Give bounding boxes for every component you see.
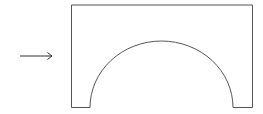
arrow-icon xyxy=(20,53,52,60)
arch-block xyxy=(72,5,253,108)
diagram-canvas xyxy=(0,0,263,114)
